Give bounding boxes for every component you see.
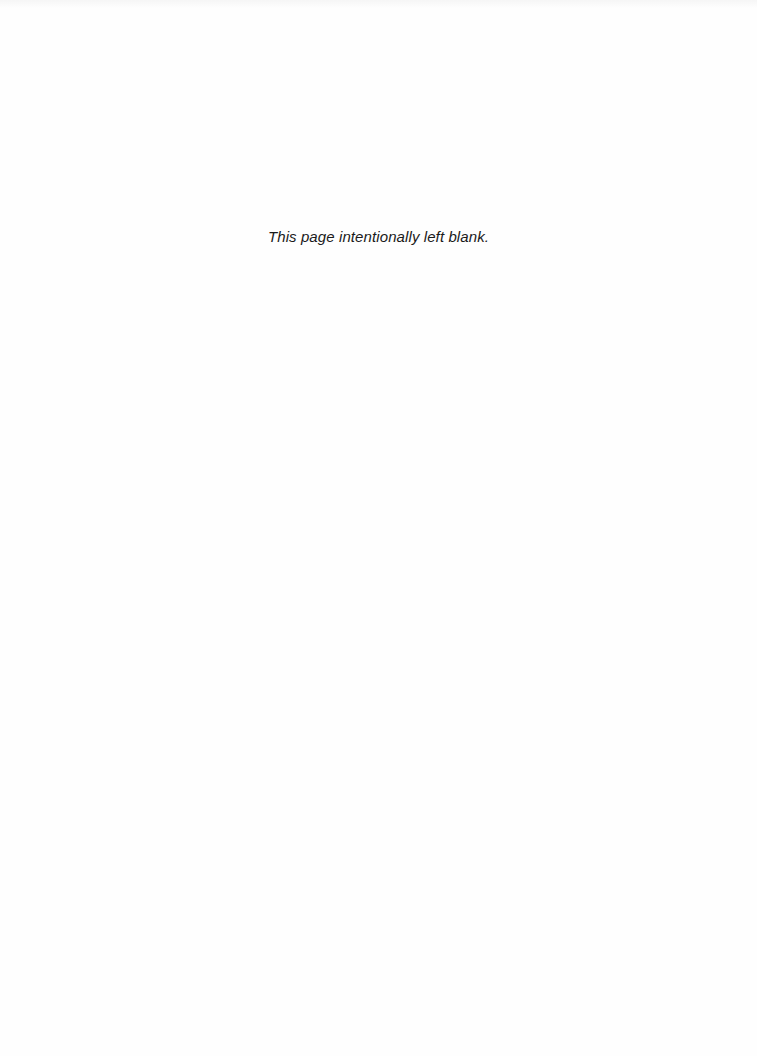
scan-edge-shadow xyxy=(0,0,757,8)
blank-page-notice: This page intentionally left blank. xyxy=(0,228,757,245)
document-page: This page intentionally left blank. xyxy=(0,0,757,1056)
